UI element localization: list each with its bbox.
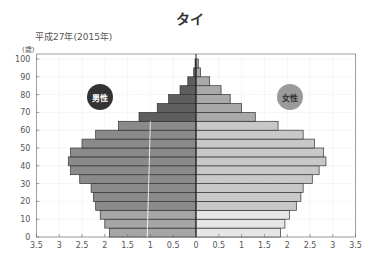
y-tick-label: 40 [20, 162, 30, 171]
bar-female [196, 175, 312, 184]
bar-male [105, 219, 196, 228]
bar-female [196, 157, 326, 166]
bar-female [196, 193, 301, 202]
legend-female-label: 女性 [282, 92, 298, 103]
x-tick-label: 2 [285, 241, 290, 250]
x-tick-label: 1.5 [258, 241, 271, 250]
bar-male [96, 201, 196, 210]
bar-male [109, 228, 196, 237]
y-tick-label: 50 [20, 144, 30, 153]
bar-male [80, 175, 196, 184]
bar-male [91, 184, 196, 193]
bar-male [82, 139, 196, 148]
bar-male [188, 77, 196, 86]
bar-female [196, 86, 221, 95]
y-tick-label: 60 [20, 126, 30, 135]
bar-male [93, 193, 196, 202]
x-tick-label: 2.5 [304, 241, 317, 250]
x-tick-label: 2.5 [76, 241, 89, 250]
bar-male [157, 104, 196, 113]
bar-male [68, 157, 196, 166]
y-tick-label: 80 [20, 91, 30, 100]
bar-female [196, 148, 324, 157]
bar-male [71, 148, 196, 157]
y-tick-label: 70 [20, 108, 30, 117]
legend-female: 女性 [277, 84, 303, 110]
y-tick-label: 20 [20, 197, 30, 206]
x-tick-label: 1 [239, 241, 244, 250]
y-tick-label: 30 [20, 180, 30, 189]
y-tick-label: 10 [20, 215, 30, 224]
bar-female [196, 210, 289, 219]
bar-female [196, 184, 303, 193]
y-tick-label: 100 [15, 55, 30, 64]
x-tick-label: 0.5 [212, 241, 225, 250]
x-tick-label: 3 [57, 241, 62, 250]
bar-female [196, 77, 210, 86]
population-pyramid-chart: 01020304050607080901003.532.521.510.500.… [0, 0, 380, 271]
x-tick-label: 2 [102, 241, 107, 250]
bar-female [196, 219, 285, 228]
bar-female [196, 228, 280, 237]
bar-male [96, 130, 196, 139]
bar-female [196, 68, 201, 77]
bar-female [196, 112, 255, 121]
bar-female [196, 130, 303, 139]
x-tick-label: 0.5 [167, 241, 180, 250]
bar-male [180, 86, 196, 95]
bar-female [196, 104, 242, 113]
x-tick-label: 3 [330, 241, 335, 250]
bar-male [71, 166, 196, 175]
legend-male: 男性 [87, 84, 113, 110]
y-tick-label: 90 [20, 73, 30, 82]
x-tick-label: 1 [148, 241, 153, 250]
bar-male [139, 112, 196, 121]
x-tick-label: 3.5 [349, 241, 362, 250]
bar-female [196, 166, 319, 175]
bar-female [196, 139, 315, 148]
x-tick-label: 1.5 [121, 241, 134, 250]
bar-female [196, 201, 296, 210]
bar-female [196, 95, 230, 104]
bar-female [196, 121, 278, 130]
bar-male [118, 121, 196, 130]
legend-male-label: 男性 [92, 92, 108, 103]
bar-male [169, 95, 196, 104]
x-tick-label: 3.5 [30, 241, 43, 250]
x-tick-label: 0 [193, 241, 198, 250]
